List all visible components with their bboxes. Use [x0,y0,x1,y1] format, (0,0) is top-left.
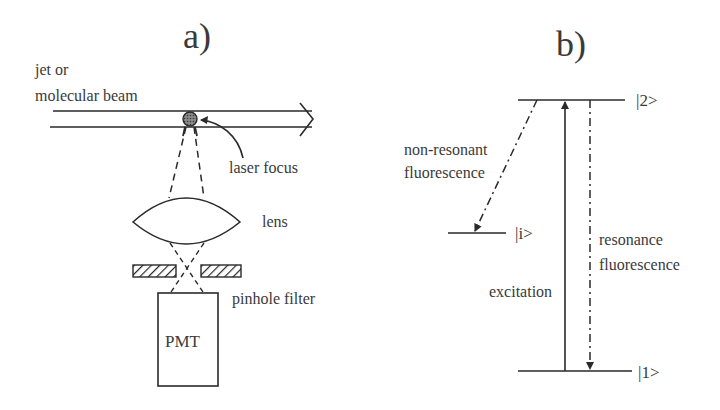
pinhole-filter-left-block [133,265,176,277]
level-2-label: |2> [636,91,658,110]
pinhole-filter-right-block [201,265,241,277]
collection-cone [169,127,204,198]
panel-a-label: a) [183,16,211,56]
level-i-label: |i> [515,224,533,243]
lens-label: lens [262,213,288,230]
non-resonant-label-line1: non-resonant [404,141,488,158]
lens-shape [133,198,240,244]
panel-b-label: b) [556,24,586,64]
panel-b: b) |2> |i> |1> excitation resonance fluo… [404,24,680,382]
pmt-label: PMT [165,332,201,351]
beam-label-line2: molecular beam [35,87,138,104]
figure-canvas: a) jet or molecular beam laser focus len… [0,0,720,410]
focus-pointer-arrowhead-icon [200,116,208,124]
resonance-label-line2: fluorescence [599,256,680,273]
excitation-label: excitation [489,283,552,300]
laser-focus-label: laser focus [229,159,298,176]
beam-label-line1: jet or [34,61,69,79]
panel-a: a) jet or molecular beam laser focus len… [34,16,316,386]
level-1-label: |1> [638,363,660,382]
pinhole-filter-label: pinhole filter [232,290,316,308]
molecular-beam-arrow [50,103,313,136]
focus-pointer-arrow [201,120,243,158]
non-resonant-label-line2: fluorescence [404,164,485,181]
laser-focus-spot-icon [183,112,197,126]
resonance-label-line1: resonance [599,231,663,248]
